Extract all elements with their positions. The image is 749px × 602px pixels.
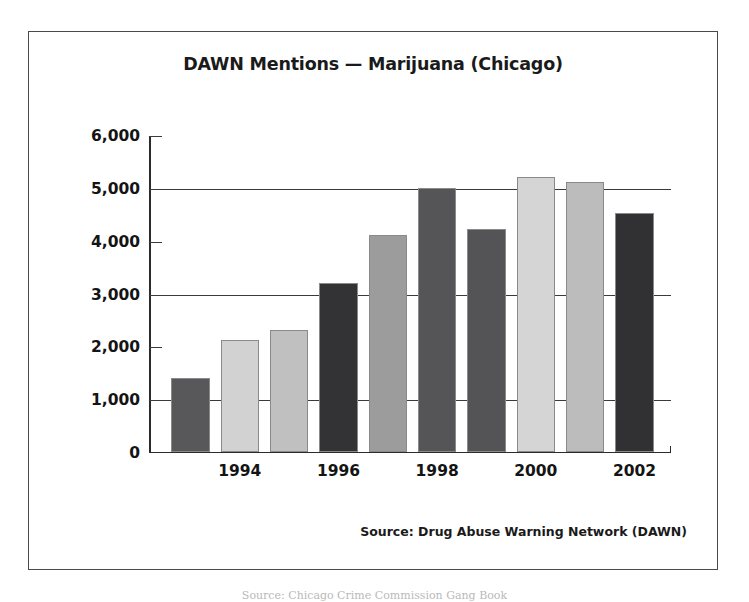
x-axis-tick-label-1996: 1996 (317, 462, 360, 480)
y-axis-tick-label: 5,000 (91, 180, 140, 198)
bar-1995 (270, 330, 308, 452)
bar-1996 (319, 283, 357, 451)
y-axis-tick-label: 4,000 (91, 233, 140, 251)
bars-layer (151, 136, 672, 452)
bar-1993 (171, 378, 209, 452)
x-axis-tick-label-2002: 2002 (613, 462, 656, 480)
x-axis-tick-label-1998: 1998 (416, 462, 459, 480)
bar-1999 (467, 229, 505, 451)
y-axis-tick-label: 2,000 (91, 338, 140, 356)
y-axis-tick-label: 6,000 (91, 127, 140, 145)
bar-1994 (221, 340, 259, 451)
figure-frame: DAWN Mentions — Marijuana (Chicago) 01,0… (28, 31, 718, 570)
chart-title: DAWN Mentions — Marijuana (Chicago) (29, 54, 717, 74)
plot-area: 01,0002,0003,0004,0005,0006,000 19941996… (149, 136, 671, 453)
bar-2001 (566, 182, 604, 452)
bar-1997 (369, 235, 407, 452)
page-caption: Source: Chicago Crime Commission Gang Bo… (0, 589, 749, 602)
y-axis-tick-label: 1,000 (91, 391, 140, 409)
bar-1998 (418, 188, 456, 451)
bar-2000 (517, 177, 555, 452)
x-axis-tick-label-1994: 1994 (218, 462, 261, 480)
y-axis-tick-label: 3,000 (91, 286, 140, 304)
x-axis-tick-label-2000: 2000 (514, 462, 557, 480)
bar-2002 (615, 213, 653, 451)
y-axis-tick-label: 0 (129, 444, 140, 462)
x-axis-line (149, 452, 671, 454)
source-note: Source: Drug Abuse Warning Network (DAWN… (360, 524, 687, 539)
